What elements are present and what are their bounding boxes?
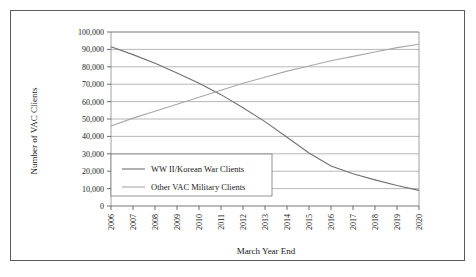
x-axis-tick-label: 2010: [195, 214, 204, 230]
y-axis-title: Number of VAC Clients: [29, 87, 39, 174]
x-axis-tick-label: 2020: [415, 214, 424, 230]
x-axis-tick-labels-group: 2006200720082009201020112012201320142015…: [107, 214, 424, 230]
x-axis-tick-label: 2009: [173, 214, 182, 230]
y-axis-tick-label: 20,000: [82, 167, 104, 176]
x-axis-tick-label: 2018: [371, 214, 380, 230]
y-axis-tick-label: 90,000: [82, 45, 104, 54]
y-axis-tick-labels-group: 010,00020,00030,00040,00050,00060,00070,…: [78, 28, 104, 211]
x-axis-tick-label: 2012: [239, 214, 248, 230]
y-axis-tick-label: 80,000: [82, 63, 104, 72]
legend-label: WW II/Korean War Clients: [151, 164, 244, 174]
x-axis-tick-label: 2016: [327, 214, 336, 230]
y-axis-tick-label: 30,000: [82, 150, 104, 159]
y-axis-tick-label: 40,000: [82, 132, 104, 141]
y-axis-tick-label: 10,000: [82, 185, 104, 194]
x-axis-tick-label: 2013: [261, 214, 270, 230]
chart-page: 010,00020,00030,00040,00050,00060,00070,…: [0, 0, 476, 277]
x-axis-tick-label: 2017: [349, 214, 358, 230]
x-axis-tick-label: 2019: [393, 214, 402, 230]
y-axis-tick-label: 70,000: [82, 80, 104, 89]
y-axis-ticks-group: [107, 32, 111, 206]
x-axis-tick-label: 2007: [129, 214, 138, 230]
series-line: [111, 44, 419, 126]
x-axis-tick-label: 2011: [217, 214, 226, 230]
line-chart: 010,00020,00030,00040,00050,00060,00070,…: [11, 11, 466, 262]
x-axis-title: March Year End: [237, 246, 296, 256]
x-axis-tick-label: 2008: [151, 214, 160, 230]
y-axis-tick-label: 100,000: [78, 28, 104, 37]
y-axis-tick-label: 50,000: [82, 115, 104, 124]
figure-frame: 010,00020,00030,00040,00050,00060,00070,…: [10, 10, 465, 261]
y-axis-tick-label: 0: [100, 202, 104, 211]
x-axis-ticks-group: [111, 206, 419, 210]
y-axis-tick-label: 60,000: [82, 98, 104, 107]
x-axis-tick-label: 2014: [283, 214, 292, 230]
x-axis-tick-label: 2006: [107, 214, 116, 230]
legend-label: Other VAC Military Clients: [151, 182, 245, 192]
chart-legend: WW II/Korean War ClientsOther VAC Milita…: [111, 154, 272, 196]
x-axis-tick-label: 2015: [305, 214, 314, 230]
